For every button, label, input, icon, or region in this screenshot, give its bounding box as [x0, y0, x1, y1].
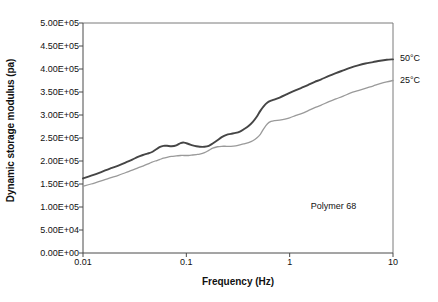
annotation-text: Polymer 68 — [311, 201, 357, 211]
series-line-25C — [83, 81, 393, 187]
y-axis-tick-labels: 0.00E+005.00E+041.00E+051.50E+052.00E+05… — [17, 0, 79, 302]
x-tick-label: 10 — [388, 257, 398, 267]
x-tick-label: 0.01 — [74, 257, 92, 267]
y-tick-label: 0.00E+00 — [17, 248, 79, 258]
y-tick-label: 4.00E+05 — [17, 64, 79, 74]
series-label-25C: 25°C — [400, 75, 420, 85]
y-tick-label: 1.00E+05 — [17, 202, 79, 212]
chart-figure: Dynamic storage modulus (pa) 0.00E+005.0… — [0, 0, 438, 302]
x-axis-title: Frequency (Hz) — [83, 276, 393, 287]
x-tick-label: 0.1 — [180, 257, 193, 267]
series-label-50C: 50°C — [400, 53, 420, 63]
y-tick-label: 3.50E+05 — [17, 87, 79, 97]
y-tick-label: 1.50E+05 — [17, 179, 79, 189]
y-tick-label: 5.00E+05 — [17, 18, 79, 28]
y-axis-title: Dynamic storage modulus (pa) — [6, 58, 17, 201]
y-tick-label: 3.00E+05 — [17, 110, 79, 120]
y-tick-label: 2.00E+05 — [17, 156, 79, 166]
x-tick-label: 1 — [287, 257, 292, 267]
series-line-50C — [83, 59, 393, 178]
y-tick-label: 5.00E+04 — [17, 225, 79, 235]
y-tick-label: 4.50E+05 — [17, 41, 79, 51]
y-tick-label: 2.50E+05 — [17, 133, 79, 143]
